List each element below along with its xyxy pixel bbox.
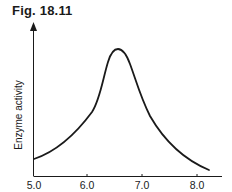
y-axis-label: Enzyme activity: [13, 80, 24, 149]
x-tick-label: 6.0: [80, 179, 95, 191]
chart: 5.0 6.0 7.0 8.0 Enzyme activity: [0, 0, 232, 192]
x-tick-label: 7.0: [135, 179, 150, 191]
x-tick-label: 8.0: [190, 179, 205, 191]
x-tick-label: 5.0: [27, 179, 42, 191]
y-axis-arrow-icon: [30, 22, 37, 31]
activity-curve: [34, 49, 209, 170]
